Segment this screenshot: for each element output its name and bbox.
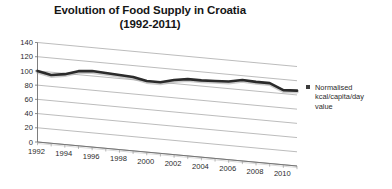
gridline	[38, 128, 298, 152]
x-tick-label: 2008	[247, 167, 264, 176]
x-tick-label: 2006	[219, 164, 236, 173]
y-tick-label: 100	[20, 67, 33, 76]
legend: Normalised kcal/capita/day value	[306, 83, 392, 111]
gridline	[38, 57, 298, 81]
x-tick-label: 2004	[192, 162, 209, 171]
y-tick-label: 0	[29, 138, 33, 147]
y-tick-label: 120	[20, 52, 33, 61]
legend-label-line-1: Normalised	[315, 83, 392, 92]
chart-container: Evolution of Food Supply in Croatia (199…	[0, 0, 392, 189]
gridline	[38, 99, 298, 123]
y-tick-label: 20	[25, 123, 33, 132]
legend-marker-square-icon	[306, 85, 310, 89]
x-tick-label: 1994	[55, 149, 72, 158]
y-tick-label: 80	[25, 81, 33, 90]
x-tick-label: 2010	[274, 169, 291, 178]
x-tick-label: 1996	[83, 152, 100, 161]
y-tick-label: 140	[20, 38, 33, 47]
y-tick-label: 40	[25, 109, 33, 118]
gridline	[38, 114, 298, 138]
legend-label: Normalised kcal/capita/day value	[315, 83, 392, 111]
y-tick-labels: 020406080100120140	[20, 38, 33, 147]
x-tick-label: 1992	[28, 147, 45, 156]
x-tick-label: 2000	[137, 157, 154, 166]
legend-label-line-3: value	[315, 102, 392, 111]
x-tick-label: 2002	[165, 159, 182, 168]
x-tick-labels: 1992199419961998200020022004200620082010	[28, 147, 291, 179]
gridline	[38, 85, 298, 109]
y-tick-label: 60	[25, 95, 33, 104]
gridline	[38, 43, 298, 67]
gridlines-group	[38, 43, 298, 167]
y-axis	[35, 43, 38, 143]
x-tick-label: 1998	[110, 154, 127, 163]
legend-label-line-2: kcal/capita/day	[315, 92, 392, 101]
